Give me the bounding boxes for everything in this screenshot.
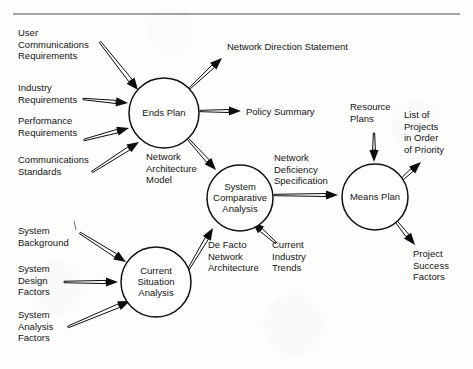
arrow-network-architecture-model-shaft [187, 138, 209, 162]
arrow-project-success-factors-head [404, 233, 415, 245]
arrow-policy-summary-head [229, 106, 241, 115]
process-label-means-plan: Means Plan [350, 191, 400, 202]
arrow-system-background-shaft [80, 232, 117, 257]
arrow-de-facto-network-architecture-shaft [187, 237, 208, 270]
flow-label-list-of-projects-in-order-of-priority: List ofProjectsin Orderof Priority [404, 109, 444, 155]
flow-label-current-industry-trends: CurrentIndustryTrends [272, 239, 306, 273]
arrow-policy-summary [200, 106, 241, 115]
data-flow-diagram: Ends PlanSystemComparativeAnalysisMeans … [0, 0, 473, 369]
arrow-resource-plans [369, 133, 378, 162]
flow-label-de-facto-network-architecture: De FactoNetworkArchitecture [208, 239, 259, 273]
flow-label-system-design-factors: SystemDesignFactors [18, 263, 50, 297]
arrow-performance-requirements [84, 127, 129, 141]
flow-label-system-background: SystemBackground [18, 225, 69, 248]
flow-label-industry-requirements: IndustryRequirements [18, 82, 77, 105]
stray-mark-layer [74, 221, 76, 230]
flow-label-resource-plans: ResourcePlans [350, 101, 391, 124]
arrow-performance-requirements-head [116, 127, 129, 136]
arrow-list-of-projects-head [409, 162, 421, 173]
arrow-system-background [80, 232, 126, 262]
arrow-network-deficiency-specification-head [326, 190, 338, 199]
arrow-industry-requirements-head [116, 97, 128, 106]
arrow-user-communications-requirements-shaft [99, 41, 132, 81]
arrow-network-direction-statement-head [210, 58, 222, 70]
flow-label-policy-summary: Policy Summary [246, 106, 315, 117]
flow-label-user-communications-requirements: UserCommunicationsRequirements [18, 27, 89, 61]
arrow-network-deficiency-specification [274, 190, 338, 199]
arrow-system-design-factors [64, 277, 118, 286]
arrow-resource-plans-head [369, 150, 378, 162]
flow-label-communications-standards: CommunicationsStandards [18, 154, 89, 177]
arrow-communications-standards [92, 142, 139, 173]
arrow-performance-requirements-shaft [84, 129, 118, 140]
flow-label-performance-requirements: PerformanceRequirements [18, 115, 77, 138]
arrow-system-analysis-factors-shaft [68, 304, 120, 328]
flow-label-project-success-factors: ProjectSuccessFactors [413, 248, 449, 282]
arrow-network-direction-statement [189, 58, 222, 89]
process-label-current-situation-analysis: CurrentSituationAnalysis [138, 265, 175, 298]
arrow-system-design-factors-shaft [64, 280, 106, 283]
arrow-industry-requirements [83, 97, 128, 106]
arrow-policy-summary-shaft [200, 110, 229, 113]
flow-label-network-architecture-model: NetworkArchitectureModel [146, 151, 197, 185]
stray-pen-tick [74, 221, 76, 230]
flow-label-system-analysis-factors: SystemAnalysisFactors [18, 309, 54, 343]
arrow-network-direction-statement-shaft [189, 65, 214, 89]
arrow-system-design-factors-head [106, 277, 118, 286]
arrow-network-architecture-model-head [205, 158, 216, 170]
process-label-ends-plan: Ends Plan [142, 107, 185, 118]
flow-label-network-deficiency-specification: NetworkDeficiencySpecification [274, 152, 328, 186]
figure-canvas: Ends PlanSystemComparativeAnalysisMeans … [0, 0, 473, 369]
arrow-user-communications-requirements [99, 41, 138, 90]
arrow-user-communications-requirements-head [127, 77, 138, 90]
flow-label-network-direction-statement: Network Direction Statement [227, 41, 348, 52]
arrow-industry-requirements-shaft [83, 98, 116, 103]
arrow-system-analysis-factors [68, 301, 130, 328]
arrow-resource-plans-shaft [373, 133, 376, 150]
arrow-network-deficiency-specification-shaft [274, 194, 326, 197]
arrow-communications-standards-shaft [92, 147, 130, 173]
